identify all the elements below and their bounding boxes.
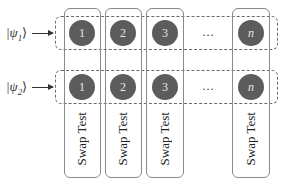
qubit-circle-r1-1: 1 bbox=[69, 20, 95, 46]
swap-test-label-3: Swap Test bbox=[157, 112, 173, 165]
qubit-circle-r2-1: 1 bbox=[69, 74, 95, 100]
qubit-circle-r1-3: 3 bbox=[152, 20, 178, 46]
ellipsis-r1: … bbox=[198, 25, 218, 40]
qubit-circle-r2-3: 3 bbox=[152, 74, 178, 100]
input-label-psi2: |ψ2⟩ bbox=[6, 79, 27, 97]
swap-test-label-2: Swap Test bbox=[115, 112, 131, 165]
qubit-circle-r2-n: n bbox=[238, 74, 264, 100]
input-label-psi1: |ψ1⟩ bbox=[6, 25, 27, 43]
arrow-psi1 bbox=[32, 33, 53, 34]
qubit-circle-r1-2: 2 bbox=[110, 20, 136, 46]
qubit-circle-r1-n: n bbox=[238, 20, 264, 46]
swap-test-label-1: Swap Test bbox=[74, 112, 90, 165]
arrow-psi2 bbox=[32, 87, 53, 88]
qubit-circle-r2-2: 2 bbox=[110, 74, 136, 100]
swap-test-label-n: Swap Test bbox=[243, 112, 259, 165]
ellipsis-r2: … bbox=[198, 79, 218, 94]
